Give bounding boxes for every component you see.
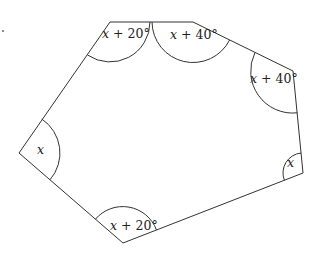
angle-arc-left	[42, 119, 60, 180]
angle-label-left: x	[37, 142, 44, 157]
angle-label-right-upper: x + 40°	[250, 71, 298, 86]
angle-label-top-right: x + 40°	[170, 27, 218, 42]
angle-label-top-left: x + 20°	[102, 26, 150, 41]
angle-label-right-lower: x	[287, 155, 294, 170]
hexagon-diagram: x + 20° x + 40° x + 40° x x + 20° x	[0, 0, 317, 258]
hexagon-outline	[19, 22, 303, 243]
stray-dot	[2, 30, 4, 32]
angle-label-bottom: x + 20°	[110, 218, 158, 233]
